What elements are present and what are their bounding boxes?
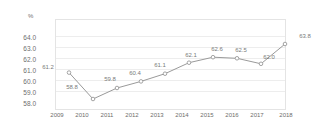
x-axis-tick-label: 2015: [194, 112, 220, 119]
x-axis-tick-label: 2014: [169, 112, 195, 119]
x-axis-tick-label: 2017: [244, 112, 270, 119]
data-label: 59.8: [99, 76, 121, 83]
x-axis-tick-label: 2013: [144, 112, 170, 119]
x-axis-tick-label: 2009: [44, 112, 70, 119]
x-axis-tick-label: 2018: [273, 112, 299, 119]
data-label: 62.1: [180, 52, 202, 59]
line-chart: % 64.0 63.0 62.0 61.0 60.0 59.0 58.0: [0, 0, 321, 134]
data-label: 58.8: [61, 84, 83, 91]
data-label: 63.8: [294, 33, 316, 40]
x-axis-tick-label: 2012: [119, 112, 145, 119]
data-label: 62.6: [206, 46, 228, 53]
data-label: 60.4: [124, 70, 146, 77]
x-axis-tick-label: 2010: [69, 112, 95, 119]
x-axis-tick-label: 2016: [219, 112, 245, 119]
x-axis-tick-label: 2011: [94, 112, 120, 119]
data-label: 62.5: [230, 47, 252, 54]
data-label: 61.2: [37, 64, 59, 71]
data-label: 61.1: [149, 62, 171, 69]
data-label: 62.0: [258, 54, 280, 61]
